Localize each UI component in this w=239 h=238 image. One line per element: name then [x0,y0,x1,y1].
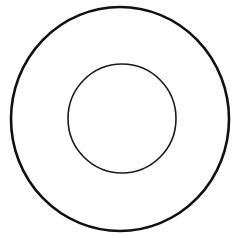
concentric-circles-diagram [0,0,239,238]
inner-circle [68,64,176,173]
diagram-canvas [0,0,239,238]
outer-circle [11,7,229,231]
